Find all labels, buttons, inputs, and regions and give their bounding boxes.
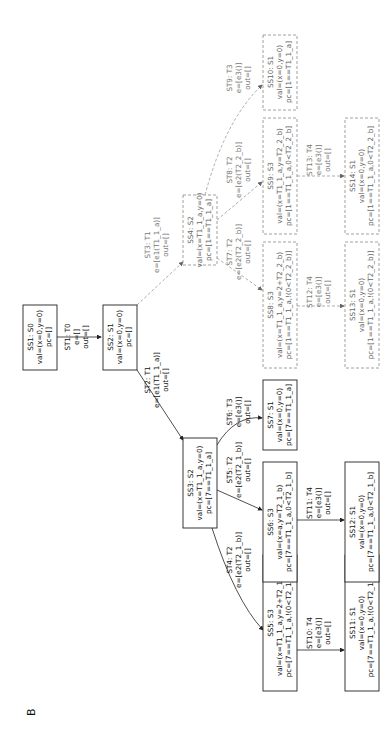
node-ss9: SS9: S3 val=(x=T1_1_a,y=T2_2_b) pc=[1==T… <box>263 118 297 234</box>
edge-st2: ST2: T1 e=[e1(T1_1_a)] out=[] <box>137 352 183 440</box>
svg-text:out=[]: out=[] <box>323 621 332 645</box>
svg-text:ST8: T2: ST8: T2 <box>225 156 234 183</box>
svg-text:e=[e1(T1_1_a)]: e=[e1(T1_1_a)] <box>152 217 161 273</box>
svg-text:out=[]: out=[] <box>243 548 252 572</box>
svg-text:ST1: T0: ST1: T0 <box>63 323 72 351</box>
svg-text:ST13: T4: ST13: T4 <box>305 144 314 176</box>
svg-text:out=[]: out=[] <box>243 66 252 90</box>
svg-text:pc=[1==T1_1_a]: pc=[1==T1_1_a] <box>284 41 293 103</box>
svg-text:e=[e2(T2_2_b)]: e=[e2(T2_2_b)] <box>234 142 243 198</box>
svg-text:ST3: T1: ST3: T1 <box>143 231 152 258</box>
edge-st3: ST3: T1 e=[e1(T1_1_a)] out=[] <box>137 217 183 305</box>
svg-text:pc=[]: pc=[] <box>124 327 133 347</box>
svg-text:e=[e3()]: e=[e3()] <box>314 487 323 518</box>
svg-text:ST5: T2: ST5: T2 <box>225 456 234 483</box>
svg-text:pc=[7==T1_1_a,0<T2_1_b]: pc=[7==T1_1_a,0<T2_1_b] <box>366 472 375 572</box>
svg-text:val=(x=0,y=0): val=(x=0,y=0) <box>357 149 366 203</box>
svg-text:SS4: S2: SS4: S2 <box>186 216 195 244</box>
svg-text:SS11: S1: SS11: S1 <box>348 607 357 639</box>
node-ss14: SS14: S1 val=(x=0,y=0) pc=[1==T1_1_a,0<T… <box>345 118 379 234</box>
svg-text:ST4: T2: ST4: T2 <box>225 546 234 573</box>
svg-text:SS14: S1: SS14: S1 <box>348 160 357 192</box>
svg-text:e=[e3()]: e=[e3()] <box>234 396 243 427</box>
svg-text:SS12: S1: SS12: S1 <box>348 506 357 538</box>
svg-text:val=(x=T1_1_a,y=0): val=(x=T1_1_a,y=0) <box>195 445 204 520</box>
svg-text:out=[]: out=[] <box>243 240 252 264</box>
svg-text:out=[]: out=[] <box>81 325 90 349</box>
svg-text:val=(x=0,y=0): val=(x=0,y=0) <box>357 596 366 650</box>
svg-text:ST11: T4: ST11: T4 <box>305 487 314 519</box>
svg-text:SS13: S1: SS13: S1 <box>348 289 357 321</box>
node-ss7: SS7: S1 val=(x=0,y=0) pc=[7==T1_1_a] <box>263 380 297 450</box>
svg-text:e=[e2(T2_2_b)]: e=[e2(T2_2_b)] <box>234 224 243 280</box>
svg-text:SS3: S2: SS3: S2 <box>186 469 195 497</box>
svg-text:SS2: S1: SS2: S1 <box>106 323 115 351</box>
svg-text:pc=[1==T1_1_a]: pc=[1==T1_1_a] <box>204 199 213 261</box>
svg-text:val=(x=T1_1_a,y=0): val=(x=T1_1_a,y=0) <box>195 192 204 267</box>
svg-text:ST9: T3: ST9: T3 <box>225 64 234 91</box>
svg-text:out=[]: out=[] <box>161 368 170 392</box>
node-ss3: SS3: S2 val=(x=T1_1_a,y=0) pc=[7==T1_1_a… <box>183 438 217 528</box>
svg-text:e=[e3()]: e=[e3()] <box>314 617 323 648</box>
svg-text:pc=[7==T1_1_a,0<T2_1_b]: pc=[7==T1_1_a,0<T2_1_b] <box>284 472 293 572</box>
svg-text:val=(x=0,y=0): val=(x=0,y=0) <box>275 388 284 442</box>
svg-text:val=(x=0,y=0): val=(x=0,y=0) <box>275 45 284 99</box>
svg-text:e=[e1(T1_1_a)]: e=[e1(T1_1_a)] <box>152 352 161 408</box>
svg-text:pc=[7==T1_1_a,!(0<T2_1_b)]: pc=[7==T1_1_a,!(0<T2_1_b)] <box>366 569 375 678</box>
edge-st5: ST5: T2 e=[e2(T2_1_b)] out=[] <box>217 442 262 510</box>
svg-text:val=(x=0,y=0): val=(x=0,y=0) <box>35 310 44 364</box>
svg-text:e=[e3()]: e=[e3()] <box>234 62 243 93</box>
svg-text:pc=[]: pc=[] <box>44 327 53 347</box>
node-ss4: SS4: S2 val=(x=T1_1_a,y=0) pc=[1==T1_1_a… <box>183 192 217 267</box>
edge-st11: ST11: T4 e=[e3()] out=[] <box>297 487 344 520</box>
svg-text:ST7: T2: ST7: T2 <box>225 238 234 265</box>
node-ss1: SS1: S0 val=(x=0,y=0) pc=[] <box>23 305 57 370</box>
edge-st12: ST12: T4 e=[e3()] out=[] <box>297 276 344 308</box>
svg-text:out=[]: out=[] <box>323 148 332 172</box>
svg-text:pc=[7==T1_1_a]: pc=[7==T1_1_a] <box>284 384 293 446</box>
svg-text:val=(x=T1_1_a,y=2+T2_2_b): val=(x=T1_1_a,y=2+T2_2_b) <box>275 252 284 358</box>
svg-text:SS5: S3: SS5: S3 <box>266 609 275 637</box>
svg-text:ST10: T4: ST10: T4 <box>305 617 314 649</box>
svg-text:SS7: S1: SS7: S1 <box>266 401 275 429</box>
svg-text:ST12: T4: ST12: T4 <box>305 276 314 308</box>
svg-text:e=[e3()]: e=[e3()] <box>314 144 323 175</box>
svg-text:e=[e3()]: e=[e3()] <box>314 276 323 307</box>
svg-text:out=[]: out=[] <box>243 400 252 424</box>
svg-text:e=[e2(T2_1_b)]: e=[e2(T2_1_b)] <box>234 442 243 498</box>
node-ss8: SS8: S3 val=(x=T1_1_a,y=2+T2_2_b) pc=[1=… <box>263 242 297 368</box>
edge-st13: ST13: T4 e=[e3()] out=[] <box>297 144 344 176</box>
node-ss12: SS12: S1 val=(x=0,y=0) pc=[7==T1_1_a,0<T… <box>345 462 379 582</box>
svg-text:pc=[7==T1_1_a,!(0<T2_1_b)]: pc=[7==T1_1_a,!(0<T2_1_b)] <box>284 569 293 678</box>
svg-text:ST6: T3: ST6: T3 <box>225 398 234 425</box>
svg-text:SS9: S3: SS9: S3 <box>266 162 275 190</box>
svg-text:val=(x=0,y=0): val=(x=0,y=0) <box>357 278 366 332</box>
svg-text:out=[]: out=[] <box>323 280 332 304</box>
svg-text:out=[]: out=[] <box>161 233 170 257</box>
svg-text:SS6: S3: SS6: S3 <box>266 508 275 536</box>
state-space-diagram: B ST1: T0 e=[] out=[] ST2: T1 e=[e1(T1_1… <box>0 0 391 746</box>
svg-text:pc=[1==T1_1_a,!(0<T2_2_b)]: pc=[1==T1_1_a,!(0<T2_2_b)] <box>366 251 375 360</box>
svg-text:out=[]: out=[] <box>323 491 332 515</box>
svg-text:e=[e2(T2_1_b)]: e=[e2(T2_1_b)] <box>234 532 243 588</box>
svg-text:out=[]: out=[] <box>243 458 252 482</box>
svg-text:SS8: S3: SS8: S3 <box>266 291 275 319</box>
svg-text:pc=[1==T1_1_a,!(0<T2_2_b)]: pc=[1==T1_1_a,!(0<T2_2_b)] <box>284 251 293 360</box>
node-ss10: SS10: S1 val=(x=0,y=0) pc=[1==T1_1_a] <box>263 35 297 110</box>
svg-text:SS1: S0: SS1: S0 <box>26 323 35 351</box>
svg-text:SS10: S1: SS10: S1 <box>266 56 275 88</box>
svg-text:pc=[1==T1_1_a,0<T2_2_b]: pc=[1==T1_1_a,0<T2_2_b] <box>366 126 375 226</box>
svg-text:val=(x=a,y=T2_1_b): val=(x=a,y=T2_1_b) <box>275 484 284 559</box>
edge-st10: ST10: T4 e=[e3()] out=[] <box>297 617 344 650</box>
svg-text:val=(x=T1_1_a,y=2+T2_1_b): val=(x=T1_1_a,y=2+T2_1_b) <box>275 570 284 676</box>
edge-st4: ST4: T2 e=[e2(T2_1_b)] out=[] <box>212 528 263 630</box>
svg-text:ST2: T1: ST2: T1 <box>143 366 152 393</box>
svg-text:out=[]: out=[] <box>243 158 252 182</box>
edge-st1: ST1: T0 e=[] out=[] <box>57 323 101 351</box>
svg-text:val=(x=T1_1_a,y=T2_2_b): val=(x=T1_1_a,y=T2_2_b) <box>275 128 284 224</box>
svg-text:e=[]: e=[] <box>72 329 81 345</box>
node-ss13: SS13: S1 val=(x=0,y=0) pc=[1==T1_1_a,!(0… <box>345 242 379 368</box>
node-ss2: SS2: S1 val=(x=0,y=0) pc=[] <box>103 305 137 370</box>
node-ss6: SS6: S3 val=(x=a,y=T2_1_b) pc=[7==T1_1_a… <box>263 462 297 582</box>
svg-text:pc=[7==T1_1_a]: pc=[7==T1_1_a] <box>204 452 213 514</box>
